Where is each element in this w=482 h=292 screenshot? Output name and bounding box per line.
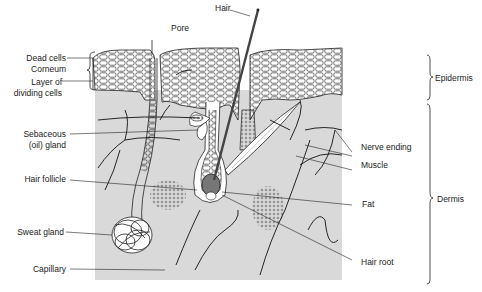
- label-corneum: Corneum: [0, 64, 66, 74]
- label-nerve-ending: Nerve ending: [361, 142, 412, 152]
- label-oil-gland: (oil) gland: [0, 140, 66, 150]
- fat-cluster-left: [150, 180, 186, 210]
- label-capillary: Capillary: [0, 264, 66, 274]
- label-sebaceous: Sebaceous: [0, 129, 66, 139]
- label-dermis: Dermis: [437, 194, 464, 204]
- label-fat: Fat: [362, 199, 374, 209]
- label-hair: Hair: [215, 3, 231, 13]
- sweat-gland: [112, 217, 152, 253]
- label-dividing-cells: dividing cells: [0, 88, 62, 98]
- label-hair-root: Hair root: [361, 257, 394, 267]
- label-dead-cells: Dead cells: [0, 53, 66, 63]
- label-layer-of: Layer of: [0, 77, 62, 87]
- label-epidermis: Epidermis: [435, 73, 473, 83]
- label-sweat-gland: Sweat gland: [0, 227, 64, 237]
- label-muscle: Muscle: [361, 160, 388, 170]
- label-pore: Pore: [171, 23, 189, 33]
- label-hair-follicle: Hair follicle: [0, 174, 66, 184]
